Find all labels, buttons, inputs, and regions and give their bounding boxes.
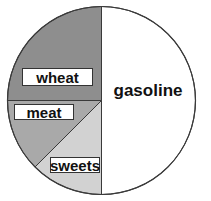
label-box-sweets: sweets [50,157,100,174]
label-gasoline: gasoline [114,81,183,100]
label-meat: meat [26,104,61,121]
slice-gasoline [102,7,196,195]
label-box-meat: meat [15,104,74,121]
slice-wheat [8,7,102,101]
label-box-wheat: wheat [23,69,93,87]
label-wheat: wheat [35,69,79,86]
pie-chart: gasoline wheat meat sweets [0,0,211,201]
pie-slices [8,7,196,195]
label-sweets: sweets [50,157,100,174]
